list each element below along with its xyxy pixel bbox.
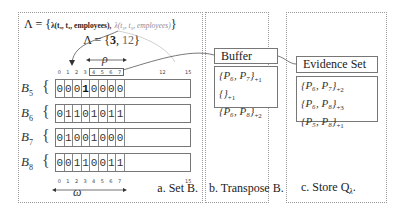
bit-cell: 1	[73, 105, 82, 122]
entry-count: +1	[336, 123, 343, 131]
bit-cell: 0	[99, 154, 108, 171]
tick-label: 3	[84, 178, 87, 184]
entry-set: {P₆, P₇}	[219, 69, 254, 81]
row-brace: {	[42, 152, 50, 170]
bit-cell: 1	[108, 154, 117, 171]
lambda-set-suffix: }	[171, 17, 177, 31]
bit-cell: 1	[90, 105, 99, 122]
row-label-sub: 7	[29, 138, 33, 147]
lambda-values-suffix: }	[134, 33, 140, 47]
bitset-row-b7: 01001000	[55, 128, 191, 147]
row-label-b5: B5	[21, 80, 33, 98]
list-entry: {P₆, P₈}+3	[301, 97, 373, 115]
tick-label: 1	[66, 178, 69, 184]
row-brace: {	[42, 103, 50, 121]
buffer-list: {P₆, P₇}+1{}+1{P₆, P₈}+2	[214, 66, 278, 108]
bit-cell: 1	[116, 154, 125, 171]
row-label-b7: B7	[21, 129, 33, 147]
entry-count: +2	[336, 86, 343, 94]
tick-label: 4	[92, 178, 95, 184]
row-brace: {	[42, 127, 50, 145]
bit-cell: 0	[73, 129, 82, 146]
list-entry: {P₆, P₈}+2	[219, 105, 273, 123]
bit-cell: 1	[65, 105, 74, 122]
omega-symbol: ω	[73, 185, 81, 200]
list-entry: {}+1	[219, 87, 273, 105]
entry-set: {}	[219, 87, 228, 99]
entry-count: +3	[336, 104, 343, 112]
bit-cell: 0	[116, 129, 125, 146]
bit-cell: 0	[99, 105, 108, 122]
lambda-values-formula: Λ = {3, 12}	[19, 33, 204, 48]
tick-label: 2	[75, 178, 78, 184]
row-label-sub: 5	[29, 89, 33, 98]
caption-store-q-text: c. Store Q	[301, 180, 349, 194]
list-entry: {P₅, P₈}+1	[301, 115, 373, 133]
tick-label: 0	[58, 178, 61, 184]
bit-cell: 0	[116, 80, 125, 97]
list-entry: {P₆, P₇}+1	[219, 69, 273, 87]
bit-cell: 0	[82, 129, 91, 146]
tick-label: 6	[109, 178, 112, 184]
bit-cell: 1	[82, 154, 91, 171]
buffer-title: Buffer	[214, 48, 278, 64]
bitset-row-b8: 00110011	[55, 153, 191, 172]
bit-cell: 0	[65, 80, 74, 97]
bit-cell: 0	[99, 129, 108, 146]
tick-label: 6	[109, 69, 112, 75]
bitset-row-b6: 01101011	[55, 104, 191, 123]
tick-label: 1	[66, 69, 69, 75]
bit-cell: 0	[56, 129, 65, 146]
bit-cell: 0	[90, 80, 99, 97]
entry-count: +1	[254, 76, 261, 84]
bit-cell: 0	[99, 80, 108, 97]
lambda-set-formula: Λ = {λ(t₉, t₃, employees), λ(t₃, t₉, emp…	[24, 17, 177, 32]
row-label-b6: B6	[21, 105, 33, 123]
tick-label: 7	[118, 69, 121, 75]
row-brace: {	[42, 78, 50, 96]
bit-cell: 0	[82, 105, 91, 122]
lambda-item-inactive: λ(t₃, t₉, employees)	[114, 21, 170, 30]
row-label-sub: 6	[29, 113, 33, 122]
bit-cell: 1	[73, 154, 82, 171]
caption-store-q-end: .	[353, 180, 356, 194]
tick-label: 2	[75, 69, 78, 75]
lambda-values-prefix: Λ = {	[83, 33, 110, 47]
entry-set: {P₅, P₈}	[301, 115, 336, 127]
caption-transpose-b: b. Transpose B.	[209, 181, 284, 196]
tick-label: 0	[58, 69, 61, 75]
caption-set-b: a. Set B.	[157, 181, 198, 196]
tick-label: 3	[84, 69, 87, 75]
bit-cell: 1	[65, 129, 74, 146]
row-label-sub: 8	[29, 162, 33, 171]
bit-cell: 0	[73, 80, 82, 97]
entry-set: {P₆, P₈}	[301, 97, 336, 109]
entry-set: {P₆, P₈}	[219, 105, 254, 117]
tick-label: 5	[101, 69, 104, 75]
bit-cell: 0	[65, 154, 74, 171]
bit-cell: 1	[82, 80, 91, 97]
bit-cell: 0	[90, 154, 99, 171]
tick-label: 15	[185, 69, 191, 75]
entry-set: {P₆, P₇}	[301, 79, 336, 91]
lambda-item-active: λ(t₉, t₃, employees),	[51, 21, 111, 30]
panel-set-b: Λ = {λ(t₉, t₃, employees), λ(t₃, t₉, emp…	[18, 12, 203, 203]
tick-label: 4	[92, 69, 95, 75]
entry-count: +2	[254, 113, 261, 121]
list-entry: {P₆, P₇}+2	[301, 79, 373, 97]
bit-cell: 1	[108, 105, 117, 122]
bitset-row-b5: 00010000	[55, 79, 191, 98]
bit-cell: 1	[90, 129, 99, 146]
bit-cell: 0	[56, 105, 65, 122]
bit-cell: 0	[56, 80, 65, 97]
row-label-b8: B8	[21, 154, 33, 172]
lambda-value-other: 12	[122, 33, 134, 47]
bit-cell: 1	[116, 105, 125, 122]
tick-label: 5	[101, 178, 104, 184]
tick-label: 12	[159, 69, 165, 75]
tick-label: 7	[118, 178, 121, 184]
lambda-set-prefix: Λ = {	[24, 17, 51, 31]
bit-cell: 0	[56, 154, 65, 171]
top-tick-labels: 012345671215	[55, 69, 191, 77]
evidence-set-list: {P₆, P₇}+2{P₆, P₈}+3{P₅, P₈}+1	[296, 76, 378, 122]
